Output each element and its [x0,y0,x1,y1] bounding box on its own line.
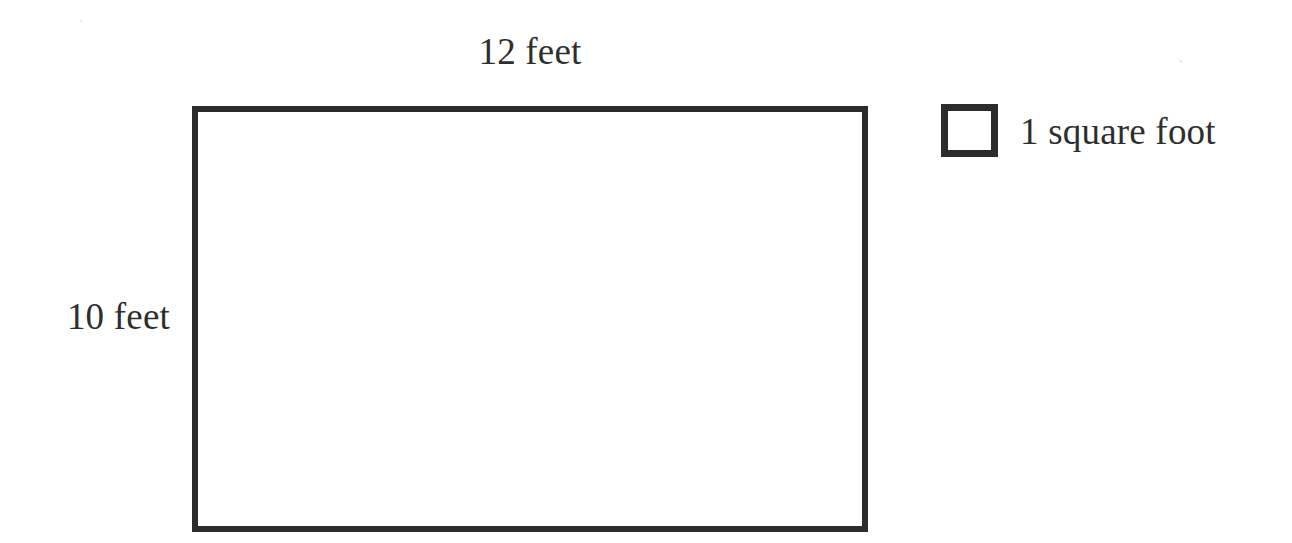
width-label: 12 feet [192,30,868,74]
legend: 1 square foot [941,104,1216,157]
room-rectangle [192,106,868,532]
height-label: 10 feet [0,295,178,339]
scan-speck [80,20,82,22]
scan-speck [1180,60,1182,63]
legend-label: 1 square foot [1020,110,1216,154]
unit-square-swatch-icon [941,104,998,157]
diagram-canvas: 12 feet 10 feet 1 square foot [0,0,1292,543]
